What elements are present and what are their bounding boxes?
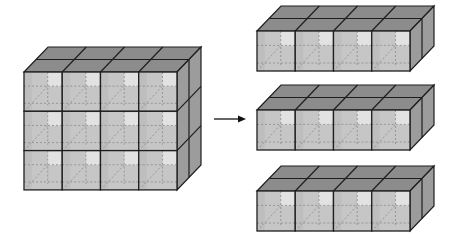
cube-highlight (281, 111, 295, 125)
cube (257, 191, 295, 231)
cube-highlight (319, 32, 333, 46)
cube (295, 191, 333, 231)
cube-highlight (124, 152, 138, 165)
cube-highlight (357, 192, 371, 206)
cube (372, 191, 410, 231)
cube-layer-middle (257, 85, 434, 150)
cube-highlight (86, 73, 100, 86)
cube-highlight (86, 112, 100, 125)
cube-highlight (319, 111, 333, 125)
cube-highlight (357, 32, 371, 46)
cube-decomposition-diagram: 4 x 3 x 2 block of cubes decomposes into (0, 0, 458, 248)
cube (24, 72, 62, 111)
cube-highlight (319, 192, 333, 206)
cube-highlight (395, 32, 409, 46)
cube-highlight (395, 192, 409, 206)
cube (334, 191, 372, 231)
cube (24, 111, 62, 150)
cube-highlight (48, 112, 62, 125)
cube (372, 31, 410, 71)
cube (295, 31, 333, 71)
arrow-head-icon (238, 116, 246, 123)
cube-highlight (48, 73, 62, 86)
cube-highlight (48, 152, 62, 165)
cube (24, 151, 62, 190)
cube (295, 110, 333, 150)
cube-layer-bottom (257, 166, 434, 231)
cube (257, 110, 295, 150)
cube (62, 151, 100, 190)
cube (62, 72, 100, 111)
cube (257, 31, 295, 71)
cube-highlight (281, 192, 295, 206)
cube (139, 111, 177, 150)
cube (139, 151, 177, 190)
diagram-canvas (0, 0, 458, 248)
decomposition-arrow (214, 116, 246, 123)
cube-highlight (124, 112, 138, 125)
cube-highlight (86, 152, 100, 165)
cube (372, 110, 410, 150)
cube-highlight (162, 112, 176, 125)
cube (334, 110, 372, 150)
cube (101, 72, 139, 111)
cube-layer-top (257, 6, 434, 71)
cube-highlight (395, 111, 409, 125)
source-cube-block (24, 47, 201, 190)
cube (101, 151, 139, 190)
cube (139, 72, 177, 111)
cube-highlight (357, 111, 371, 125)
cube (101, 111, 139, 150)
cube-highlight (162, 73, 176, 86)
cube (334, 31, 372, 71)
cube (62, 111, 100, 150)
cube-highlight (124, 73, 138, 86)
cube-highlight (281, 32, 295, 46)
cube-highlight (162, 152, 176, 165)
